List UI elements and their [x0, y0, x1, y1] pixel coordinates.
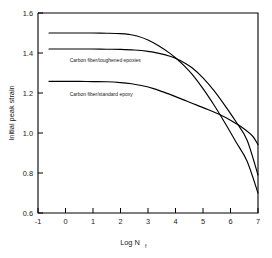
y-tick-label-1: 0.8: [23, 169, 33, 178]
annotation-standard-epoxy: Carbon fiber/standard epoxy: [70, 91, 134, 97]
x-tick-label-8: 7: [256, 217, 260, 226]
chart-figure: 0.6 0.8 1.0 1.2 1.4 1.6 -1 0 1 2 3 4: [0, 0, 272, 258]
y-axis-title-text: Initial peak strain: [7, 85, 16, 140]
x-tick-label-7: 6: [228, 217, 232, 226]
chart-svg: 0.6 0.8 1.0 1.2 1.4 1.6 -1 0 1 2 3 4: [0, 0, 272, 258]
x-tick-label-0: -1: [35, 217, 42, 226]
x-tick-label-6: 5: [201, 217, 205, 226]
y-tick-label-4: 1.4: [23, 49, 33, 58]
y-axis-title: Initial peak strain: [7, 85, 16, 140]
y-tick-label-2: 1.0: [23, 129, 33, 138]
x-tick-label-2: 1: [91, 217, 95, 226]
x-tick-label-5: 4: [173, 217, 177, 226]
annotation-toughened-epoxies: Carbon fiber/toughened epoxies: [70, 57, 142, 63]
y-tick-label-0: 0.6: [23, 209, 33, 218]
x-tick-label-1: 0: [63, 217, 67, 226]
y-tick-label-3: 1.2: [23, 89, 33, 98]
x-tick-label-4: 3: [146, 217, 150, 226]
y-tick-label-5: 1.6: [23, 9, 33, 18]
x-tick-label-3: 2: [118, 217, 122, 226]
x-axis-title-text: Log N: [120, 238, 140, 247]
